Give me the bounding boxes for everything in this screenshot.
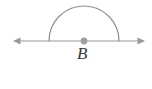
arrow-right-icon	[138, 38, 146, 45]
geometry-figure: B	[0, 0, 152, 89]
straight-angle-arc	[49, 6, 119, 41]
arrow-left-icon	[13, 38, 21, 45]
figure-canvas	[0, 0, 152, 89]
point-label-b: B	[77, 45, 87, 62]
